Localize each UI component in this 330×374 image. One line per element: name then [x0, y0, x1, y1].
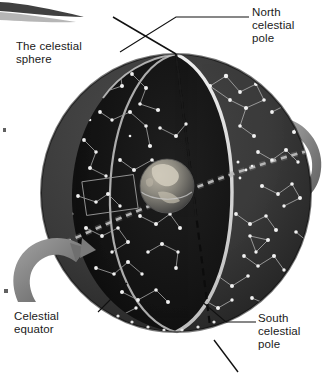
label-north-celestial-pole: North celestial pole — [252, 6, 294, 46]
celestial-sphere-figure: The celestial sphere North celestial pol… — [0, 0, 330, 374]
label-celestial-sphere: The celestial sphere — [16, 40, 82, 66]
earth-globe — [140, 159, 194, 213]
label-south-celestial-pole: South celestial pole — [258, 312, 300, 352]
label-celestial-equator: Celestial equator — [14, 310, 59, 336]
